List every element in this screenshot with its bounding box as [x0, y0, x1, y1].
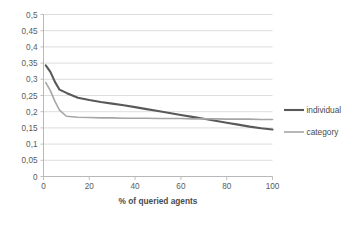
- y-tick-label: 0,5: [26, 11, 38, 20]
- x-tick-label: 40: [131, 182, 141, 191]
- legend-label-individual: individual: [307, 105, 342, 115]
- x-axis-title-label: % of queried agents: [119, 196, 198, 206]
- y-tick-label: 0: [33, 173, 38, 182]
- y-tick-label: 0,4: [26, 43, 38, 52]
- y-tick-label: 0,1: [26, 140, 38, 149]
- y-tick-label: 0,45: [22, 27, 38, 36]
- data-series: [46, 65, 273, 129]
- x-tick-label: 20: [85, 182, 95, 191]
- x-tick-label: 80: [222, 182, 232, 191]
- legend-label-category: category: [307, 127, 340, 137]
- y-tick-label: 0,35: [22, 59, 38, 68]
- x-tick-label: 60: [176, 182, 186, 191]
- x-tick-label: 0: [41, 182, 46, 191]
- gridlines: [44, 15, 273, 161]
- y-tick-label: 0,15: [22, 124, 38, 133]
- y-tick-label: 0,2: [26, 108, 38, 117]
- y-tick-label: 0,25: [22, 92, 38, 101]
- x-axis-tick-labels: 020406080100: [41, 177, 280, 192]
- series-line-category: [46, 83, 273, 120]
- chart-legend: individualcategory: [284, 105, 341, 137]
- line-chart: 00,050,10,150,20,250,30,350,40,450,5 020…: [0, 0, 358, 225]
- y-tick-label: 0,3: [26, 75, 38, 84]
- x-tick-label: 100: [266, 182, 280, 191]
- y-tick-label: 0,05: [22, 156, 38, 165]
- chart-canvas: 00,050,10,150,20,250,30,350,40,450,5 020…: [0, 0, 358, 225]
- x-axis-title: % of queried agents: [119, 196, 198, 206]
- y-axis-tick-labels: 00,050,10,150,20,250,30,350,40,450,5: [22, 11, 44, 182]
